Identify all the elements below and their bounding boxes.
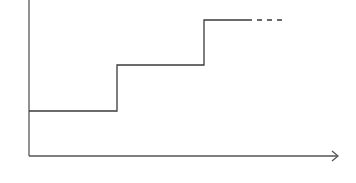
diagram-canvas	[0, 0, 356, 183]
step-function-diagram	[0, 0, 356, 183]
step-line	[29, 20, 247, 111]
